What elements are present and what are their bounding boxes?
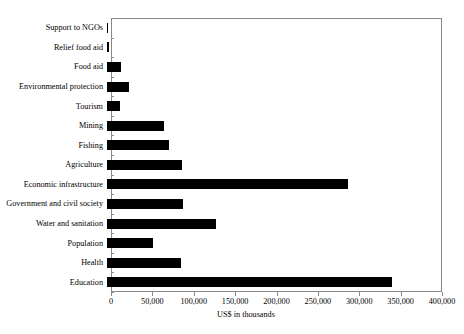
bar-chart: Support to NGOsRelief food aidFood aidEn… xyxy=(0,0,464,334)
category-label: Tourism xyxy=(0,102,107,111)
bar-cell xyxy=(107,18,464,38)
category-label: Education xyxy=(0,278,107,287)
bar-row: Food aid xyxy=(0,57,464,77)
x-axis-tick-label: 0 xyxy=(109,297,113,306)
y-axis-tick xyxy=(111,116,114,117)
x-axis-tick xyxy=(401,292,402,296)
category-label: Government and civil society xyxy=(0,199,107,208)
y-axis-tick xyxy=(111,38,114,39)
y-axis-tick xyxy=(111,253,114,254)
y-axis-tick xyxy=(111,214,114,215)
bar-row: Health xyxy=(0,253,464,273)
x-axis-title: US$ in thousands xyxy=(0,310,464,319)
bar-row: Government and civil society xyxy=(0,194,464,214)
bar xyxy=(107,277,392,287)
bar xyxy=(107,199,183,209)
y-axis-tick xyxy=(111,155,114,156)
category-label: Food aid xyxy=(0,62,107,71)
bar xyxy=(107,238,153,248)
x-axis-title-text: US$ in thousands xyxy=(217,310,275,319)
y-axis-tick xyxy=(111,292,114,293)
x-axis-tick xyxy=(359,292,360,296)
category-label: Agriculture xyxy=(0,160,107,169)
bar-cell xyxy=(107,77,464,97)
category-label: Support to NGOs xyxy=(0,23,107,32)
category-label: Environmental protection xyxy=(0,82,107,91)
bar-row: Environmental protection xyxy=(0,77,464,97)
bar-row: Support to NGOs xyxy=(0,18,464,38)
bar xyxy=(107,101,120,111)
bar-cell xyxy=(107,175,464,195)
bar-row: Water and sanitation xyxy=(0,214,464,234)
bar-cell xyxy=(107,253,464,273)
bar xyxy=(107,219,216,229)
bar-cell xyxy=(107,273,464,293)
bar-cell xyxy=(107,135,464,155)
y-axis-tick xyxy=(111,272,114,273)
y-axis-tick xyxy=(111,175,114,176)
x-axis-tick-label: 200,000 xyxy=(263,297,290,306)
bar-row: Population xyxy=(0,233,464,253)
y-axis-tick xyxy=(111,57,114,58)
category-label: Relief food aid xyxy=(0,43,107,52)
bar-cell xyxy=(107,214,464,234)
bar-cell xyxy=(107,194,464,214)
bar-row: Relief food aid xyxy=(0,38,464,58)
bar xyxy=(107,121,164,131)
bar xyxy=(107,160,182,170)
x-axis-tick-label: 300,000 xyxy=(346,297,373,306)
x-axis-tick-label: 350,000 xyxy=(387,297,414,306)
x-axis-tick xyxy=(194,292,195,296)
y-axis-tick xyxy=(111,96,114,97)
x-axis-tick xyxy=(235,292,236,296)
bar xyxy=(107,42,109,52)
bar-cell xyxy=(107,155,464,175)
category-rows: Support to NGOsRelief food aidFood aidEn… xyxy=(0,18,464,292)
bar-row: Fishing xyxy=(0,135,464,155)
y-axis-tick xyxy=(111,135,114,136)
x-axis-tick xyxy=(318,292,319,296)
bar xyxy=(107,258,181,268)
bar-cell xyxy=(107,96,464,116)
bar xyxy=(107,82,129,92)
x-axis-tick-label: 50,000 xyxy=(141,297,164,306)
bar-cell xyxy=(107,233,464,253)
x-axis-tick-label: 100,000 xyxy=(180,297,207,306)
x-axis-tick-label: 250,000 xyxy=(305,297,332,306)
x-axis-tick-label: 400,000 xyxy=(429,297,456,306)
category-label: Fishing xyxy=(0,141,107,150)
x-axis-tick xyxy=(277,292,278,296)
bar-cell xyxy=(107,38,464,58)
bar-row: Tourism xyxy=(0,96,464,116)
bar-cell xyxy=(107,57,464,77)
category-label: Health xyxy=(0,258,107,267)
y-axis-tick xyxy=(111,233,114,234)
bar xyxy=(107,62,121,72)
x-axis-tick xyxy=(152,292,153,296)
category-label: Mining xyxy=(0,121,107,130)
bar xyxy=(107,23,108,33)
category-label: Economic infrastructure xyxy=(0,180,107,189)
x-axis-tick xyxy=(442,292,443,296)
bar-row: Mining xyxy=(0,116,464,136)
bar xyxy=(107,179,348,189)
bar-cell xyxy=(107,116,464,136)
bar-row: Education xyxy=(0,273,464,293)
x-axis-tick-label: 150,000 xyxy=(222,297,249,306)
x-axis: US$ in thousands 050,000100,000150,00020… xyxy=(0,292,464,334)
bar xyxy=(107,140,169,150)
y-axis-tick xyxy=(111,194,114,195)
bar-row: Agriculture xyxy=(0,155,464,175)
bar-row: Economic infrastructure xyxy=(0,175,464,195)
y-axis-tick xyxy=(111,77,114,78)
category-label: Population xyxy=(0,239,107,248)
category-label: Water and sanitation xyxy=(0,219,107,228)
